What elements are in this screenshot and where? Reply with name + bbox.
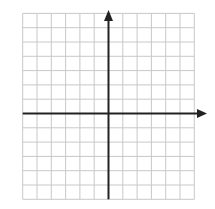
x-axis-arrow-icon [197,109,207,118]
y-axis-arrow-icon [104,10,113,21]
x-axis [23,109,207,118]
coordinate-plane [0,0,215,209]
